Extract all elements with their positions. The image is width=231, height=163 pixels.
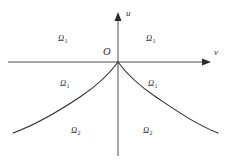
region-label-middle-left: Ω1 xyxy=(60,79,69,89)
math-figure: O u v Ω1 Ω1 Ω1 Ω1 Ω2 Ω2 xyxy=(0,0,231,163)
region-label-middle-right: Ω1 xyxy=(148,79,157,89)
region-subscript: 1 xyxy=(152,38,155,44)
region-label-lower-right: Ω2 xyxy=(143,126,152,136)
region-subscript: 1 xyxy=(154,83,157,89)
region-label-upper-left: Ω1 xyxy=(58,34,67,44)
u-axis-label: u xyxy=(126,9,131,18)
region-subscript: 2 xyxy=(77,130,80,136)
region-label-lower-left: Ω2 xyxy=(71,126,80,136)
region-subscript: 2 xyxy=(149,130,152,136)
region-label-upper-right: Ω1 xyxy=(146,34,155,44)
origin-label: O xyxy=(103,47,111,58)
region-subscript: 1 xyxy=(66,83,69,89)
right-cusp-curve xyxy=(118,62,218,133)
v-axis-label: v xyxy=(214,48,218,57)
u-axis-arrowhead xyxy=(115,12,122,21)
v-axis-arrowhead xyxy=(202,59,211,66)
figure-canvas xyxy=(0,0,231,163)
region-subscript: 1 xyxy=(64,38,67,44)
left-cusp-curve xyxy=(13,62,118,133)
